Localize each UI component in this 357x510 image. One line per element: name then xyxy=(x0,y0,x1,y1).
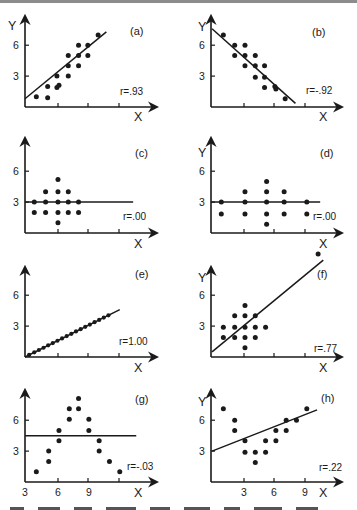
data-point xyxy=(304,211,309,216)
data-point xyxy=(282,211,287,216)
data-point xyxy=(43,210,48,215)
data-point xyxy=(66,63,71,68)
x-tick-label: 3 xyxy=(241,486,247,498)
y-tick-label: 3 xyxy=(199,70,205,82)
data-point xyxy=(242,450,247,455)
data-point xyxy=(284,418,289,423)
data-point xyxy=(55,177,60,182)
data-point xyxy=(46,449,51,454)
y-tick-label: 6 xyxy=(199,289,205,301)
correlation-annotation: r=.00 xyxy=(313,211,337,222)
data-point xyxy=(66,189,71,194)
data-point xyxy=(66,74,71,79)
data-point xyxy=(242,345,247,350)
data-point xyxy=(85,43,90,48)
data-point xyxy=(242,43,247,48)
x-axis-label: X xyxy=(134,486,143,500)
data-point xyxy=(304,406,309,411)
data-point xyxy=(69,332,73,336)
data-point xyxy=(263,438,268,443)
data-point xyxy=(253,325,258,330)
x-axis-label: X xyxy=(319,486,328,500)
scatterplot-panel-d: 36(d)r=.00YX xyxy=(198,138,342,251)
data-point xyxy=(264,179,269,184)
data-point xyxy=(264,189,269,194)
data-point xyxy=(76,63,81,68)
data-point xyxy=(253,53,258,58)
data-point xyxy=(56,83,61,88)
correlation-annotation: r=-.92 xyxy=(306,85,333,96)
data-point xyxy=(294,418,299,423)
data-point xyxy=(242,313,247,318)
x-tick-label: 9 xyxy=(86,486,92,498)
panel-label: (h) xyxy=(321,392,334,404)
data-point xyxy=(96,32,101,37)
correlation-annotation: r=1.00 xyxy=(119,336,148,347)
y-axis-label: Y xyxy=(198,271,207,285)
y-tick-label: 3 xyxy=(199,445,205,457)
correlation-annotation: r=.93 xyxy=(120,86,144,97)
data-point xyxy=(242,438,247,443)
data-point xyxy=(264,200,269,205)
data-point xyxy=(56,428,61,433)
data-point xyxy=(221,325,226,330)
x-tick-label: 6 xyxy=(55,486,61,498)
data-point xyxy=(55,339,59,343)
data-point xyxy=(97,318,101,322)
x-axis-label: X xyxy=(134,110,143,124)
x-axis-label: X xyxy=(134,361,143,375)
data-point xyxy=(273,428,278,433)
data-point xyxy=(262,63,267,68)
data-point xyxy=(67,417,72,422)
scatterplot-panel-a: 36(a)r=.93YX xyxy=(8,16,157,124)
data-point xyxy=(232,43,237,48)
data-point xyxy=(56,438,61,443)
data-point xyxy=(282,200,287,205)
data-point xyxy=(43,200,48,205)
data-point xyxy=(253,335,258,340)
data-point xyxy=(117,469,122,474)
regression-line xyxy=(212,410,317,451)
data-point xyxy=(66,200,71,205)
data-point xyxy=(106,313,110,317)
data-point xyxy=(262,75,267,80)
y-tick-label: 3 xyxy=(199,196,205,208)
y-tick-label: 3 xyxy=(13,70,19,82)
data-point xyxy=(232,325,237,330)
data-point xyxy=(55,210,60,215)
y-tick-label: 6 xyxy=(199,165,205,177)
data-point xyxy=(263,450,268,455)
data-point xyxy=(263,325,268,330)
panel-label: (e) xyxy=(135,268,148,280)
data-point xyxy=(76,43,81,48)
data-point xyxy=(219,200,224,205)
data-point xyxy=(242,200,247,205)
data-point xyxy=(27,353,31,357)
data-point xyxy=(46,343,50,347)
data-point xyxy=(97,449,102,454)
data-point xyxy=(55,200,60,205)
data-point xyxy=(51,341,55,345)
data-point xyxy=(86,417,91,422)
y-tick-label: 3 xyxy=(13,320,19,332)
y-tick-label: 6 xyxy=(199,414,205,426)
data-point xyxy=(74,329,78,333)
data-point xyxy=(242,189,247,194)
data-point xyxy=(41,346,45,350)
data-point xyxy=(66,53,71,58)
y-axis-label: Y xyxy=(198,395,207,409)
data-point xyxy=(232,428,237,433)
y-tick-label: 3 xyxy=(13,445,19,457)
data-point xyxy=(76,396,81,401)
data-point xyxy=(253,75,258,80)
data-point xyxy=(283,96,288,101)
panel-label: (b) xyxy=(312,26,325,38)
scatterplot-panel-c: 36(c)r=.00X xyxy=(13,138,157,251)
y-tick-label: 6 xyxy=(13,39,19,51)
data-point xyxy=(242,325,247,330)
x-axis-label: X xyxy=(319,110,328,124)
scatterplot-panel-g: 36369(g)r=-.03X xyxy=(13,390,157,500)
data-point xyxy=(43,189,48,194)
y-axis-label: Y xyxy=(198,146,207,160)
correlation-annotation: r=.22 xyxy=(319,462,343,473)
